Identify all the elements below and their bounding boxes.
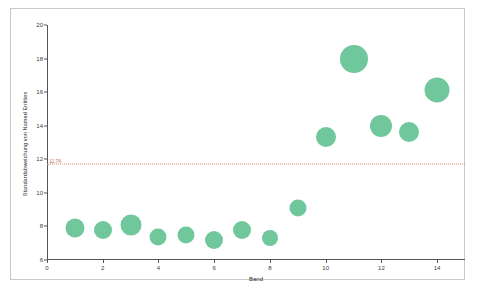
x-tick-label: 4 bbox=[148, 265, 168, 271]
reference-line bbox=[47, 163, 465, 164]
y-tick-label: 18 bbox=[25, 56, 43, 62]
y-tick-label: 20 bbox=[25, 22, 43, 28]
data-point-bubble[interactable] bbox=[340, 45, 368, 73]
x-tick-label: 6 bbox=[204, 265, 224, 271]
reference-line-label: 11.74 bbox=[49, 159, 61, 164]
x-tick-mark bbox=[158, 260, 159, 263]
x-tick-label: 10 bbox=[316, 265, 336, 271]
data-point-bubble[interactable] bbox=[316, 127, 336, 147]
x-tick-mark bbox=[214, 260, 215, 263]
data-point-bubble[interactable] bbox=[205, 231, 223, 249]
y-tick-label: 6 bbox=[25, 257, 43, 263]
x-tick-mark bbox=[103, 260, 104, 263]
data-point-bubble[interactable] bbox=[120, 214, 141, 235]
x-tick-label: 8 bbox=[260, 265, 280, 271]
x-axis-label: Band bbox=[249, 276, 263, 282]
data-point-bubble[interactable] bbox=[65, 219, 84, 238]
data-point-bubble[interactable] bbox=[370, 115, 392, 137]
y-tick-mark bbox=[44, 159, 47, 160]
x-tick-mark bbox=[270, 260, 271, 263]
y-tick-label: 8 bbox=[25, 223, 43, 229]
x-tick-mark bbox=[326, 260, 327, 263]
figure-frame: 68101214161820 02468101214 11.74 Band St… bbox=[10, 8, 465, 280]
data-point-bubble[interactable] bbox=[150, 228, 167, 245]
x-tick-label: 0 bbox=[37, 265, 57, 271]
x-tick-mark bbox=[381, 260, 382, 263]
x-tick-label: 12 bbox=[371, 265, 391, 271]
y-tick-mark bbox=[44, 125, 47, 126]
data-point-bubble[interactable] bbox=[233, 221, 251, 239]
data-point-bubble[interactable] bbox=[289, 199, 306, 216]
data-point-bubble[interactable] bbox=[425, 78, 450, 103]
data-point-bubble[interactable] bbox=[178, 226, 195, 243]
y-tick-mark bbox=[44, 192, 47, 193]
plot-area: 68101214161820 02468101214 11.74 Band bbox=[47, 25, 465, 260]
x-tick-label: 14 bbox=[427, 265, 447, 271]
data-point-bubble[interactable] bbox=[94, 221, 112, 239]
data-point-bubble[interactable] bbox=[399, 122, 419, 142]
y-tick-mark bbox=[44, 226, 47, 227]
x-axis-line bbox=[47, 259, 465, 260]
data-point-bubble[interactable] bbox=[262, 230, 278, 246]
y-tick-mark bbox=[44, 25, 47, 26]
y-axis-label: Standardabweichung von Named Entities bbox=[22, 92, 28, 197]
x-tick-label: 2 bbox=[93, 265, 113, 271]
x-tick-mark bbox=[437, 260, 438, 263]
y-tick-mark bbox=[44, 92, 47, 93]
chart-screenshot: 68101214161820 02468101214 11.74 Band St… bbox=[0, 0, 477, 292]
y-tick-mark bbox=[44, 58, 47, 59]
x-tick-mark bbox=[47, 260, 48, 263]
y-axis-line bbox=[47, 25, 48, 260]
